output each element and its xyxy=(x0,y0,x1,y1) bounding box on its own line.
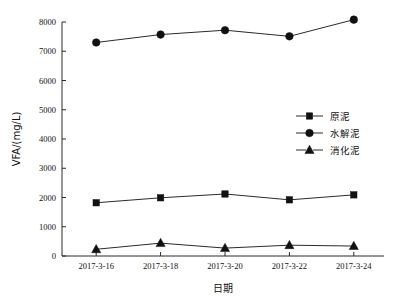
x-tick-label: 2017-3-18 xyxy=(143,261,178,271)
data-point-原泥-2017-3-20 xyxy=(222,191,228,197)
vfa-line-chart: 0100020003000400050006000700080002017-3-… xyxy=(0,0,404,300)
legend-label-消化泥: 消化泥 xyxy=(330,145,360,156)
y-tick-label: 1000 xyxy=(39,222,56,232)
axis-spines xyxy=(62,22,384,256)
data-point-消化泥-2017-3-18 xyxy=(156,238,165,246)
x-tick-label: 2017-3-22 xyxy=(272,261,307,271)
data-point-水解泥-2017-3-24 xyxy=(350,16,358,24)
y-tick-label: 4000 xyxy=(39,134,56,144)
y-tick-label: 8000 xyxy=(39,17,56,27)
y-axis-title: VFA/(mg/L) xyxy=(11,112,22,167)
series-水解泥 xyxy=(92,16,357,46)
y-tick-label: 6000 xyxy=(39,76,56,86)
chart-figure: 0100020003000400050006000700080002017-3-… xyxy=(0,0,404,300)
data-point-水解泥-2017-3-20 xyxy=(221,26,229,34)
x-tick-label: 2017-3-20 xyxy=(207,261,242,271)
x-tick-label: 2017-3-16 xyxy=(78,261,113,271)
legend: 原泥水解泥消化泥 xyxy=(296,111,360,156)
y-tick-label: 7000 xyxy=(39,46,56,56)
data-point-原泥-2017-3-22 xyxy=(286,197,292,203)
y-tick-label: 3000 xyxy=(39,163,56,173)
x-tick-label: 2017-3-24 xyxy=(336,261,372,271)
y-tick-label: 2000 xyxy=(39,193,56,203)
series-消化泥 xyxy=(92,238,359,252)
y-tick-label: 0 xyxy=(52,251,56,261)
x-axis-title: 日期 xyxy=(213,283,233,294)
data-point-水解泥-2017-3-18 xyxy=(157,31,165,39)
legend-marker-原泥 xyxy=(306,113,312,119)
y-tick-label: 5000 xyxy=(39,105,56,115)
data-point-原泥-2017-3-24 xyxy=(351,192,357,198)
data-point-消化泥-2017-3-22 xyxy=(285,240,294,248)
legend-label-水解泥: 水解泥 xyxy=(330,128,360,139)
data-point-原泥-2017-3-18 xyxy=(157,195,163,201)
legend-label-原泥: 原泥 xyxy=(330,111,350,122)
data-point-原泥-2017-3-16 xyxy=(93,200,99,206)
legend-marker-消化泥 xyxy=(305,145,314,153)
legend-marker-水解泥 xyxy=(306,129,314,137)
data-point-水解泥-2017-3-22 xyxy=(286,33,294,41)
data-point-水解泥-2017-3-16 xyxy=(92,39,100,47)
data-point-消化泥-2017-3-24 xyxy=(349,241,358,249)
series-原泥 xyxy=(93,191,357,206)
